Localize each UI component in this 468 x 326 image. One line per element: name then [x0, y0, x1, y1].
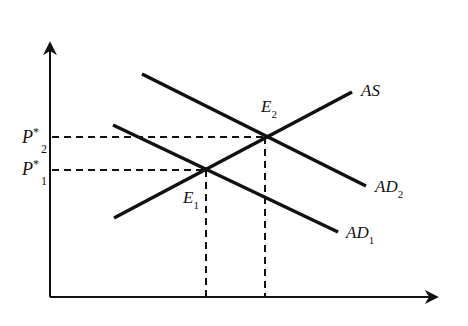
e2-label: E2	[260, 97, 277, 120]
p2-label: P*	[21, 125, 39, 147]
guide-lines	[52, 137, 265, 296]
as-ad-diagram: AS AD1 AD2 E1 E2 P* 2 P* 1	[0, 0, 468, 326]
p2-subscript: 2	[41, 142, 47, 156]
p1-subscript: 1	[41, 174, 47, 188]
as-curve	[114, 92, 352, 218]
ad1-curve	[113, 125, 338, 232]
ad1-label: AD1	[345, 223, 374, 246]
e1-label: E1	[182, 188, 199, 211]
as-label: AS	[360, 81, 380, 100]
ad2-label: AD2	[374, 177, 403, 200]
p1-label: P*	[21, 157, 39, 179]
